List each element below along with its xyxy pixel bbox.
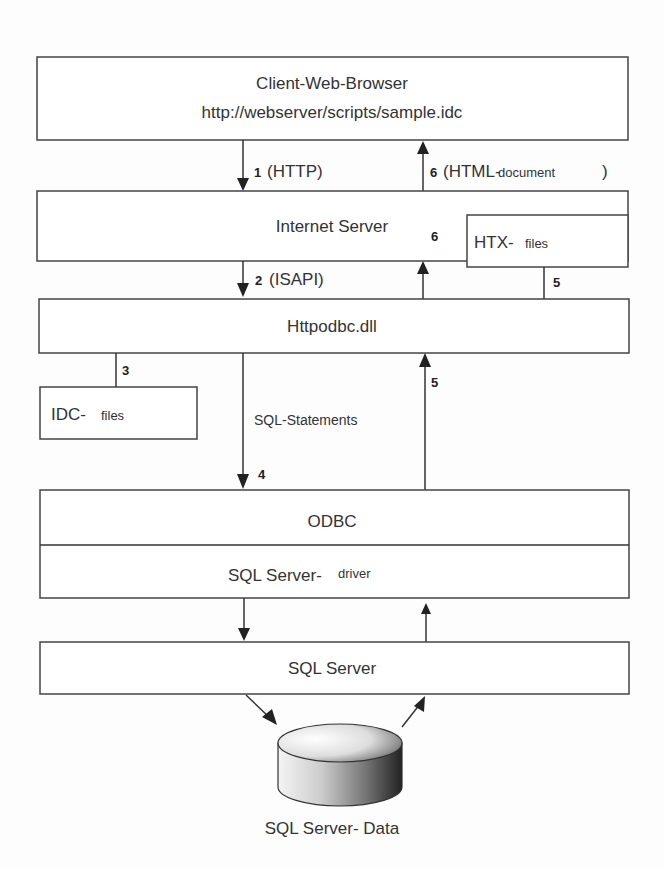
svg-text:HTX-: HTX- xyxy=(474,233,514,252)
arrow-step-4: SQL-Statements 4 xyxy=(237,353,358,489)
database-icon xyxy=(278,724,402,806)
client-url: http://webserver/scripts/sample.idc xyxy=(202,103,463,122)
sql-server-box: SQL Server xyxy=(40,642,629,694)
svg-text:(HTTP): (HTTP) xyxy=(267,162,323,181)
svg-text:document: document xyxy=(498,165,555,180)
arrow-step-6-top: 6 (HTML- document ) xyxy=(417,141,608,192)
svg-text:(HTML-: (HTML- xyxy=(443,162,501,181)
arrow-down-icon xyxy=(238,628,250,641)
arrow-up-icon xyxy=(417,261,429,274)
svg-text:6: 6 xyxy=(430,165,437,180)
diagram-canvas: Client-Web-Browser http://webserver/scri… xyxy=(0,0,664,869)
arrow-down-icon xyxy=(262,709,277,725)
svg-text:3: 3 xyxy=(122,363,129,378)
arrow-step-1: 1 (HTTP) xyxy=(237,140,323,191)
arrow-step-5-odbc: 5 xyxy=(419,353,438,490)
arrow-down-icon xyxy=(237,178,249,191)
driver-sqlserver-arrows xyxy=(238,598,431,642)
svg-text:Internet Server: Internet Server xyxy=(276,217,389,236)
svg-text:5: 5 xyxy=(553,275,560,290)
database-arrows xyxy=(246,695,425,727)
idc-files-box: IDC- files xyxy=(40,387,197,439)
svg-text:4: 4 xyxy=(258,467,266,482)
architecture-diagram: Client-Web-Browser http://webserver/scri… xyxy=(0,0,664,869)
svg-text:Httpodbc.dll: Httpodbc.dll xyxy=(287,317,377,336)
client-web-browser-box: Client-Web-Browser http://webserver/scri… xyxy=(37,57,628,140)
connector-step-3: 3 xyxy=(116,353,129,387)
arrow-up-icon xyxy=(419,353,431,367)
svg-text:(ISAPI): (ISAPI) xyxy=(269,270,324,289)
svg-text:2: 2 xyxy=(255,273,262,288)
arrow-step-2: 2 (ISAPI) xyxy=(237,261,324,297)
svg-text:SQL Server: SQL Server xyxy=(288,659,377,678)
htx-files-box: HTX- files 5 xyxy=(467,215,628,299)
svg-text:): ) xyxy=(602,162,608,181)
svg-text:5: 5 xyxy=(431,375,438,390)
odbc-box: ODBC SQL Server- driver xyxy=(40,490,629,598)
svg-text:SQL-Statements: SQL-Statements xyxy=(254,412,358,428)
svg-text:ODBC: ODBC xyxy=(307,512,356,531)
arrow-down-icon xyxy=(237,474,249,489)
database-label: SQL Server- Data xyxy=(265,819,400,838)
svg-text:files: files xyxy=(101,408,125,423)
svg-text:6: 6 xyxy=(431,229,438,244)
arrow-up-icon xyxy=(417,141,429,154)
arrow-up-icon xyxy=(421,603,431,614)
svg-text:files: files xyxy=(525,236,549,251)
svg-text:1: 1 xyxy=(254,165,261,180)
svg-text:driver: driver xyxy=(338,566,371,581)
httpodbc-dll-box: Httpodbc.dll xyxy=(39,299,629,353)
svg-text:IDC-: IDC- xyxy=(51,405,86,424)
arrow-down-icon xyxy=(237,283,249,297)
sql-driver-label: SQL Server- xyxy=(228,566,322,585)
client-title: Client-Web-Browser xyxy=(256,74,408,93)
